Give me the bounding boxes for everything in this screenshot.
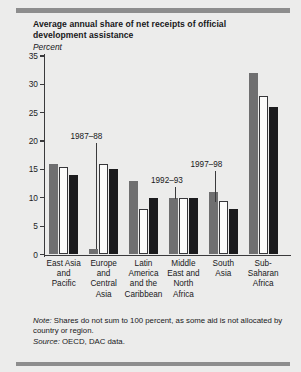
y-tick-10: 10 <box>4 193 38 203</box>
bar-1987-88-sub-saharan-africa <box>249 73 258 254</box>
top-rule <box>16 8 290 13</box>
category-label-line: East and <box>161 269 205 279</box>
bar-1987-88-south-asia <box>209 192 218 254</box>
chart-title: Average annual share of net receipts of … <box>33 19 278 41</box>
bar-1997-98-sub-saharan-africa <box>269 107 278 254</box>
bar-1992-93-east-asia-and-pacific <box>59 167 68 255</box>
figure-panel: Average annual share of net receipts of … <box>0 0 301 372</box>
annotation-leader-line <box>175 187 176 199</box>
series-annotation-1997-98: 1997–98 <box>191 160 223 169</box>
category-label-line: Asia <box>82 290 126 300</box>
category-label-line: Africa <box>241 279 285 289</box>
category-label-line: Africa <box>161 290 205 300</box>
bar-1992-93-latin-america-and-the-caribbean <box>139 209 148 254</box>
category-label-line: and <box>42 269 86 279</box>
source-text: OECD, DAC data. <box>60 337 125 346</box>
y-tick-mark-5 <box>40 226 44 227</box>
y-tick-mark-10 <box>40 197 44 198</box>
annotation-leader-line <box>215 171 216 202</box>
bar-1997-98-east-asia-and-pacific <box>69 175 78 254</box>
y-tick-20: 20 <box>4 136 38 146</box>
note-text: Shares do not sum to 100 percent, as som… <box>33 316 282 335</box>
source-line: Source: OECD, DAC data. <box>33 337 283 347</box>
category-label-line: and the <box>122 279 166 289</box>
y-tick-0: 0 <box>4 250 38 260</box>
bar-1987-88-east-asia-and-pacific <box>49 164 58 255</box>
category-label-line: and <box>82 269 126 279</box>
figure-notes: Note: Shares do not sum to 100 percent, … <box>33 316 283 347</box>
bottom-rule <box>16 362 290 366</box>
category-label-line: North <box>161 279 205 289</box>
category-label-line: East Asia <box>42 259 86 269</box>
y-tick-mark-15 <box>40 169 44 170</box>
category-label-line: Europe <box>82 259 126 269</box>
y-tick-30: 30 <box>4 79 38 89</box>
category-label-5: Sub-SaharanAfrica <box>241 259 285 290</box>
y-tick-mark-0 <box>40 254 44 255</box>
y-tick-25: 25 <box>4 108 38 118</box>
y-tick-15: 15 <box>4 164 38 174</box>
category-label-line: Middle <box>161 259 205 269</box>
y-tick-mark-25 <box>40 112 44 113</box>
note-line: Note: Shares do not sum to 100 percent, … <box>33 316 283 337</box>
note-label: Note: <box>33 316 52 325</box>
bar-1987-88-latin-america-and-the-caribbean <box>129 181 138 255</box>
annotation-leader-line <box>96 143 97 249</box>
x-axis-line <box>44 255 291 256</box>
category-label-3: MiddleEast andNorthAfrica <box>161 259 205 300</box>
category-label-line: Asia <box>201 269 245 279</box>
category-label-line: Sub- <box>241 259 285 269</box>
category-label-0: East AsiaandPacific <box>42 259 86 290</box>
series-annotation-1987-88: 1987–88 <box>71 132 103 141</box>
category-label-line: Pacific <box>42 279 86 289</box>
category-label-2: LatinAmericaand theCaribbean <box>122 259 166 300</box>
bar-1992-93-sub-saharan-africa <box>259 96 268 255</box>
bar-1987-88-europe-and-central-asia <box>89 249 98 255</box>
category-label-4: SouthAsia <box>201 259 245 279</box>
y-tick-mark-20 <box>40 140 44 141</box>
bar-1992-93-middle-east-and-north-africa <box>179 198 188 255</box>
bar-1992-93-europe-and-central-asia <box>99 164 108 255</box>
y-tick-mark-35 <box>40 55 44 56</box>
category-label-line: Central <box>82 279 126 289</box>
bar-1997-98-middle-east-and-north-africa <box>189 198 198 255</box>
category-label-line: Latin <box>122 259 166 269</box>
category-label-line: Saharan <box>241 269 285 279</box>
bar-1997-98-latin-america-and-the-caribbean <box>149 198 158 255</box>
category-label-line: South <box>201 259 245 269</box>
series-annotation-1992-93: 1992–93 <box>151 176 183 185</box>
y-tick-5: 5 <box>4 221 38 231</box>
bar-1997-98-europe-and-central-asia <box>109 169 118 254</box>
y-tick-35: 35 <box>4 51 38 61</box>
y-tick-mark-30 <box>40 84 44 85</box>
y-axis-line <box>44 54 45 257</box>
category-label-1: EuropeandCentralAsia <box>82 259 126 300</box>
category-label-line: Caribbean <box>122 290 166 300</box>
bar-1987-88-middle-east-and-north-africa <box>169 198 178 255</box>
bar-1997-98-south-asia <box>229 209 238 254</box>
source-label: Source: <box>33 337 60 346</box>
category-label-line: America <box>122 269 166 279</box>
bar-1992-93-south-asia <box>219 201 228 255</box>
